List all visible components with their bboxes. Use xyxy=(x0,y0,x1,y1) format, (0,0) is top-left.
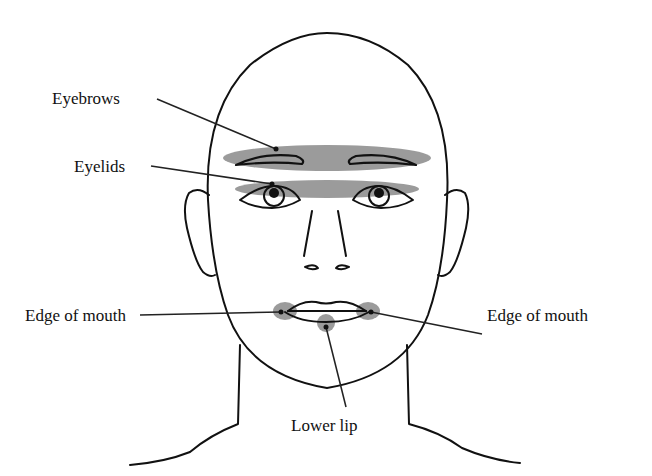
edge-of-mouth-right-leader xyxy=(371,312,482,334)
eyelids-point xyxy=(270,182,275,187)
edge-of-mouth-left-point xyxy=(279,310,284,315)
label-eyelids: Eyelids xyxy=(74,158,125,175)
edge-of-mouth-right-point xyxy=(369,310,374,315)
eyebrows-leader xyxy=(157,99,276,149)
upper-lip xyxy=(288,302,366,311)
neck-right-line xyxy=(407,345,520,463)
label-edge-of-mouth-left: Edge of mouth xyxy=(25,307,126,324)
neck-left-line xyxy=(130,345,240,465)
lower-lip-leader xyxy=(326,327,346,407)
nose-right-line xyxy=(338,211,346,256)
label-eyebrows: Eyebrows xyxy=(52,90,120,107)
face-diagram: Eyebrows Eyelids Edge of mouth Edge of m… xyxy=(0,0,652,476)
nose-left-line xyxy=(304,211,312,256)
right-ear xyxy=(438,190,468,276)
label-edge-of-mouth-right: Edge of mouth xyxy=(487,307,588,324)
right-nostril xyxy=(336,265,349,269)
label-lower-lip: Lower lip xyxy=(291,417,358,434)
eyebrows-point xyxy=(274,147,279,152)
right-pupil xyxy=(374,188,384,198)
left-pupil xyxy=(269,188,279,198)
face-drawing xyxy=(0,0,652,476)
eyelids-leader xyxy=(151,166,272,184)
lower-lip-point xyxy=(324,325,329,330)
left-nostril xyxy=(305,265,318,269)
edge-of-mouth-left-leader xyxy=(140,312,281,315)
